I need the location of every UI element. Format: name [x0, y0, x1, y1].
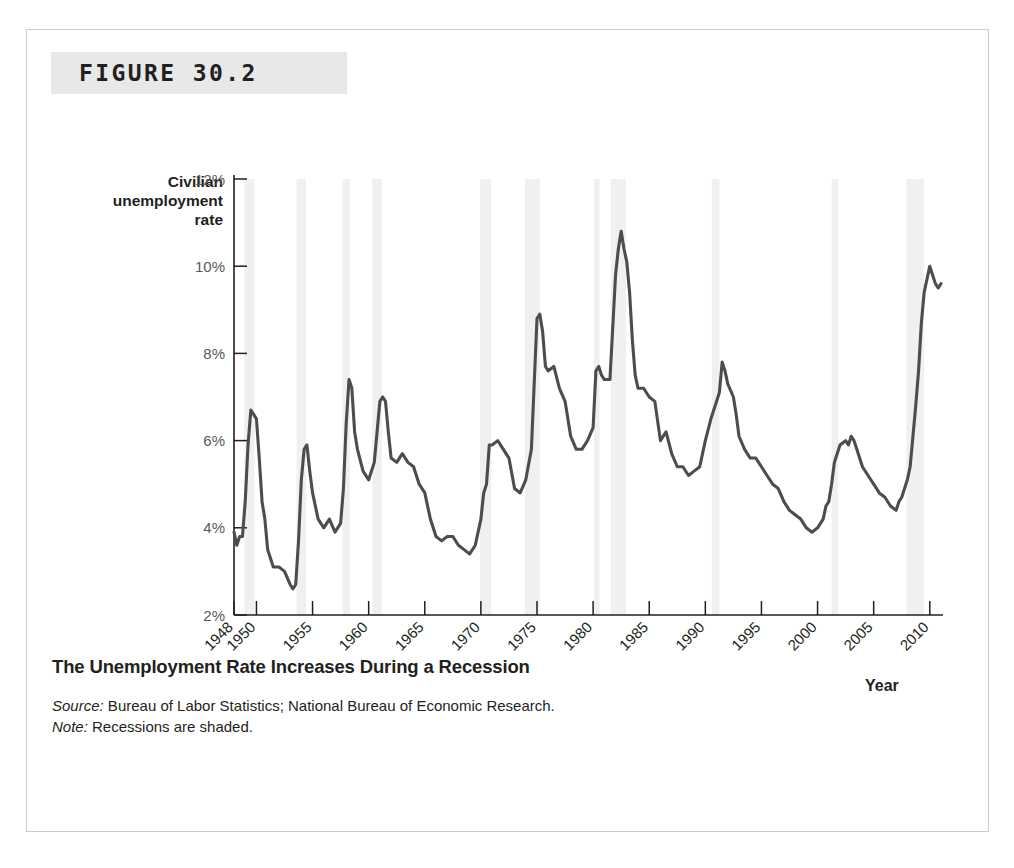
x-tick-label: 1960 — [335, 618, 371, 654]
x-tick-label: 1990 — [672, 618, 708, 654]
y-tick-label: 12% — [195, 171, 225, 188]
figure-number-band: FIGURE 30.2 — [51, 52, 347, 94]
source-prefix: Source: — [52, 697, 104, 714]
x-tick-label: 1955 — [279, 618, 315, 654]
caption-note: Note: Recessions are shaded. — [52, 716, 952, 737]
note-text: Recessions are shaded. — [88, 718, 253, 735]
recession-band — [832, 179, 839, 615]
recession-band — [372, 179, 381, 615]
y-tick-label: 6% — [203, 432, 225, 449]
recession-band — [480, 179, 491, 615]
caption-title: The Unemployment Rate Increases During a… — [52, 656, 952, 678]
recession-shading-group — [244, 179, 924, 615]
figure-number-label: FIGURE 30.2 — [79, 60, 258, 86]
caption-source: Source: Bureau of Labor Statistics; Nati… — [52, 695, 952, 716]
x-tick-label: 1985 — [616, 618, 652, 654]
x-tick-label: 2010 — [896, 618, 932, 654]
figure-card: FIGURE 30.2 Civilian unemployment rate Y… — [26, 29, 989, 832]
y-tick-label: 4% — [203, 519, 225, 536]
caption-block: The Unemployment Rate Increases During a… — [52, 656, 952, 737]
x-tick-label: 1980 — [560, 618, 596, 654]
y-tick-group: 2%4%6%8%10%12% — [195, 171, 247, 624]
unemployment-rate-line-chart: 2%4%6%8%10%12% 1948195019551960196519701… — [27, 110, 990, 700]
x-tick-group: 1948195019551960196519701975198019851990… — [201, 601, 932, 654]
chart-region: Civilian unemployment rate Year 2%4%6%8%… — [27, 110, 990, 700]
x-tick-label: 1965 — [391, 618, 427, 654]
x-tick-label: 1975 — [504, 618, 540, 654]
source-text: Bureau of Labor Statistics; National Bur… — [104, 697, 555, 714]
x-tick-label: 2000 — [784, 618, 820, 654]
x-tick-label: 1995 — [728, 618, 764, 654]
x-tick-label: 2005 — [840, 618, 876, 654]
x-tick-label: 1970 — [447, 618, 483, 654]
y-tick-label: 8% — [203, 345, 225, 362]
y-tick-label: 10% — [195, 258, 225, 275]
recession-band — [244, 179, 254, 615]
note-prefix: Note: — [52, 718, 88, 735]
